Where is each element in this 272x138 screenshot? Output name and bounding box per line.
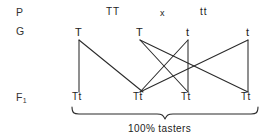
f1-offspring-4: Tt bbox=[241, 92, 251, 102]
f1-summary-brace bbox=[72, 107, 258, 119]
f1-offspring-1: Tt bbox=[72, 92, 82, 102]
summary-caption: 100% tasters bbox=[128, 123, 191, 134]
cross-lines-and-brace bbox=[0, 0, 272, 138]
f1-offspring-3: Tt bbox=[181, 92, 191, 102]
f1-offspring-2: Tt bbox=[133, 92, 143, 102]
line-g1-to-f1b bbox=[79, 40, 143, 92]
genetics-punnett-cross-diagram: P G F1 TT x tt T T t t Tt Tt Tt Tt 100% … bbox=[0, 0, 272, 138]
